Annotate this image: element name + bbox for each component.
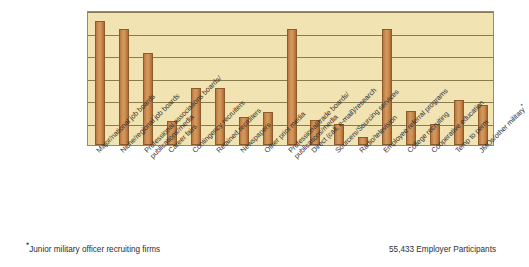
bar xyxy=(95,21,105,145)
footnote-text: Junior military officer recruiting firms xyxy=(29,245,160,254)
x-axis-labels: Major/national job boardsNiche/regional … xyxy=(0,146,514,236)
participants-label: 55,433 Employer Participants xyxy=(389,245,496,254)
x-axis-label-superscript: * xyxy=(519,103,525,109)
footnote: *Junior military officer recruiting firm… xyxy=(26,245,160,254)
